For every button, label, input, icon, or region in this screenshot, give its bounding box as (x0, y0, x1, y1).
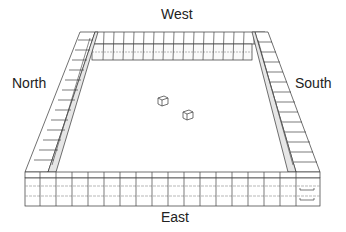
west-wall (90, 32, 272, 60)
north-wall (25, 32, 98, 172)
enclosure-diagram (0, 0, 346, 232)
east-wall (25, 172, 320, 206)
die-1 (158, 96, 168, 106)
die-2 (183, 110, 193, 120)
